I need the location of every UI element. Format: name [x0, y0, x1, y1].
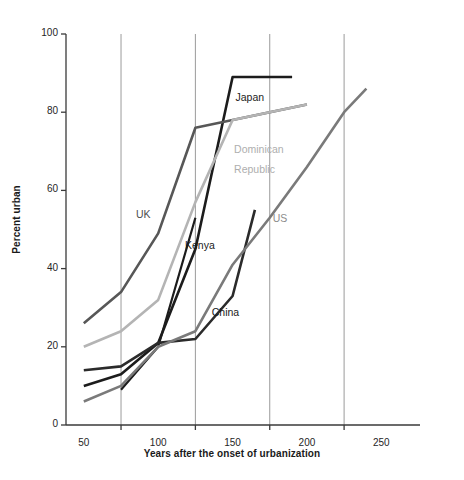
series-label-japan: Japan — [236, 91, 265, 103]
y-tick-label: 20 — [24, 340, 58, 351]
series-line-china — [84, 210, 255, 370]
chart-figure: 020406080100 50100150200250 JapanUKDomin… — [0, 0, 464, 480]
x-axis-title: Years after the onset of urbanization — [0, 448, 464, 459]
tick-marks — [61, 34, 344, 430]
y-tick-label: 60 — [24, 183, 58, 194]
x-tick-label: 250 — [361, 437, 401, 448]
x-tick-label: 100 — [138, 437, 178, 448]
series-label-kenya: Kenya — [185, 239, 215, 251]
gridlines — [121, 34, 344, 425]
series-label-uk: UK — [136, 208, 151, 220]
y-tick-label: 0 — [24, 418, 58, 429]
y-axis-title: Percent urban — [11, 170, 22, 270]
series-label-dominican-line2: Republic — [234, 163, 275, 175]
y-tick-label: 40 — [24, 262, 58, 273]
series-paths — [84, 77, 367, 402]
line-chart-plot — [0, 0, 464, 480]
y-tick-label: 80 — [24, 105, 58, 116]
x-tick-label: 200 — [287, 437, 327, 448]
series-label-us: US — [273, 212, 288, 224]
series-label-dominican-line1: Dominican — [234, 143, 284, 155]
x-tick-label: 50 — [64, 437, 104, 448]
y-tick-label: 100 — [24, 27, 58, 38]
series-label-china: China — [212, 306, 239, 318]
x-tick-label: 150 — [213, 437, 253, 448]
